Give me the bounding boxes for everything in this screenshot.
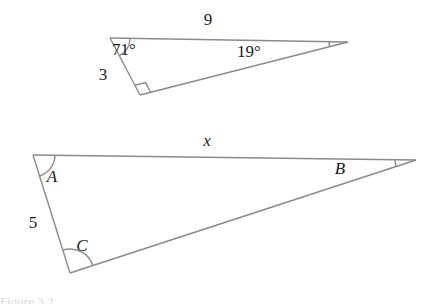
lower-left-side-label-5: 5	[29, 213, 38, 232]
lower-angle-label-a: A	[46, 167, 58, 186]
upper-angle-arc-right	[329, 42, 330, 47]
lower-angle-label-b: B	[335, 159, 346, 178]
lower-triangle-top-side	[33, 155, 416, 160]
upper-triangle-group: 9 3 71° 19°	[99, 10, 348, 95]
upper-triangle-top-side	[110, 38, 348, 42]
upper-angle-label-19: 19°	[237, 42, 261, 61]
lower-angle-label-c: C	[76, 236, 88, 255]
upper-top-side-label: 9	[204, 10, 213, 29]
lower-top-side-label-x: x	[202, 131, 211, 150]
geometry-figure: Two similar triangles with labeled sides…	[0, 0, 435, 304]
lower-triangle-long-side	[70, 160, 416, 273]
clipped-caption-fragment: Figure 3.2	[0, 295, 435, 304]
upper-angle-label-71: 71°	[112, 40, 136, 59]
upper-left-side-label: 3	[99, 65, 108, 84]
similar-triangles-svg: Two similar triangles with labeled sides…	[0, 0, 435, 304]
lower-triangle-group: x 5 A B C	[29, 131, 416, 273]
lower-angle-arc-b	[395, 160, 396, 167]
